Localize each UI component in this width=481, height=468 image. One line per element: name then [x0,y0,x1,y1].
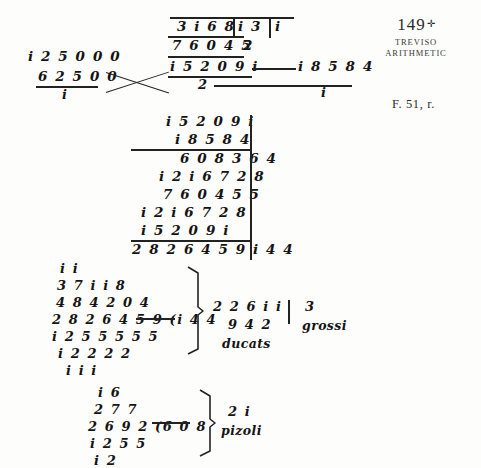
division-divisor-b: i [275,20,282,34]
pizoli-label: pizoli [221,423,262,438]
header-title-line2: ARITHMETIC [360,48,472,59]
folio-number-line: 149✛ [360,14,472,35]
page-header: 149✛ TREVISO ARITHMETIC [360,14,472,59]
rule-right [214,85,352,87]
rule-second [168,36,244,38]
pizoli-line-0: i 6 [88,386,207,399]
partial-product-0: 6 0 8 3 6 4 [180,152,277,166]
folio-number: 149 [397,14,426,35]
partial-product-3: i 2 i 6 7 2 8 [141,206,247,220]
division-second-row: 7 6 0 4 5 [172,39,252,53]
center-under: 2 [198,78,209,91]
multiplier: i 8 5 8 4 [175,133,251,147]
left-result: i [62,88,69,101]
folio-caption: F. 51, r. [392,97,435,112]
ducats-result-line1: 2 2 6 i i [213,300,283,313]
pizoli-line-4: i 2 [88,450,207,467]
header-title-line1: TREVISO [360,37,472,48]
vrule-divisor-2 [269,18,271,38]
ducats-line-6: i i i [52,360,217,377]
vrule-grossi-separator [288,300,290,324]
rule-top [170,17,294,19]
partial-product-4: i 5 2 0 9 i [141,224,230,238]
division-quotient-small: 2 [243,39,254,53]
grossi-label: grossi [302,318,347,333]
ducats-brace [184,265,206,355]
pizoli-line-1: 2 7 7 [88,399,207,416]
rule-ducats-remainder [136,318,175,320]
rule-pizoli-remainder [152,422,190,424]
left-upper-number: i 2 5 0 0 0 [28,50,121,64]
grossi-value: 3 [305,300,316,313]
division-divisor-a: i 3 [238,20,262,34]
pizoli-line-3: i 2 5 5 [88,433,207,450]
right-under: i [321,86,328,99]
pizoli-result-value: 2 i [228,405,251,418]
ducats-result-line2: 9 4 2 [228,318,272,331]
pizoli-brace [196,388,218,458]
cross-icon: ✛ [427,18,435,29]
division-dividend: 3 i 6 8 [177,20,236,34]
ducats-label: ducats [222,336,271,351]
vrule-divisor-1 [233,18,235,38]
product-total: 2 8 2 6 4 5 9 i 4 4 [132,243,294,257]
multiplicand: i 5 2 0 9 i [166,115,255,129]
pizoli-line-2: 2 6 9 2 (6 0 8 [88,416,207,433]
partial-product-2: 7 6 0 4 5 5 [163,188,260,202]
connector-dash [252,68,296,70]
pizoli-stack: i 6 2 7 7 2 6 9 2 (6 0 8 i 2 5 5 i 2 [88,386,207,467]
right-result: i 8 5 8 4 [298,60,374,74]
center-result: i 5 2 0 9 i [170,60,259,74]
vrule-mult-right [250,115,252,260]
rule-center [168,76,252,78]
